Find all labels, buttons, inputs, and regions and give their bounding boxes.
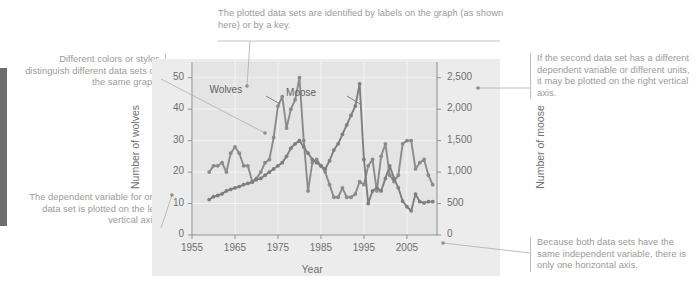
series-point-wolves xyxy=(401,142,405,146)
series-point-wolves xyxy=(427,173,431,177)
ytick-left-20: 20 xyxy=(158,165,184,176)
series-point-moose xyxy=(405,205,409,209)
series-point-wolves xyxy=(233,145,237,149)
figure-root: The plotted data sets are identified by … xyxy=(0,0,697,304)
annotation-left-bottom: The dependent variable for one data set … xyxy=(10,192,166,227)
series-point-wolves xyxy=(224,170,228,174)
series-point-moose xyxy=(375,186,379,190)
series-point-wolves xyxy=(267,158,271,162)
series-point-wolves xyxy=(358,180,362,184)
series-point-wolves xyxy=(336,195,340,199)
annotation-top: The plotted data sets are identified by … xyxy=(218,8,508,31)
xtick-2005: 2005 xyxy=(387,242,427,253)
series-point-moose xyxy=(255,178,259,182)
series-point-moose xyxy=(302,145,306,149)
series-label-moose: Moose xyxy=(286,87,316,98)
series-point-moose xyxy=(396,186,400,190)
annotation-top-text: The plotted data sets are identified by … xyxy=(218,8,508,31)
series-point-moose xyxy=(233,186,237,190)
series-point-moose xyxy=(229,187,233,191)
series-point-moose xyxy=(207,198,211,202)
series-point-moose xyxy=(267,170,271,174)
series-point-moose xyxy=(379,189,383,193)
ytick-left-50: 50 xyxy=(158,71,184,82)
series-point-wolves xyxy=(263,161,267,165)
ytick-left-40: 40 xyxy=(158,102,184,113)
series-point-moose xyxy=(431,200,435,204)
y-axis-title-left: Number of wolves xyxy=(129,92,141,202)
annotation-left-top: Different colors or styles distinguish d… xyxy=(20,54,166,89)
xtick-1955: 1955 xyxy=(172,242,212,253)
series-point-moose xyxy=(388,164,392,168)
series-point-moose xyxy=(353,104,357,108)
series-point-moose xyxy=(272,167,276,171)
series-point-wolves xyxy=(353,192,357,196)
series-point-moose xyxy=(298,139,302,143)
y-axis-title-right: Number of moose xyxy=(534,92,546,202)
ytick-right-2500: 2,500 xyxy=(447,71,483,82)
series-point-wolves xyxy=(302,139,306,143)
annotation-right-bottom-text: Because both data sets have the same ind… xyxy=(537,237,697,272)
series-point-moose xyxy=(250,180,254,184)
series-point-moose xyxy=(280,161,284,165)
series-point-moose xyxy=(259,176,263,180)
series-point-wolves xyxy=(366,164,370,168)
series-point-wolves xyxy=(345,195,349,199)
ytick-right-1000: 1,000 xyxy=(447,165,483,176)
series-point-wolves xyxy=(418,161,422,165)
series-point-moose xyxy=(349,114,353,118)
xtick-1985: 1985 xyxy=(301,242,341,253)
series-point-moose xyxy=(384,176,388,180)
series-point-moose xyxy=(341,132,345,136)
series-point-moose xyxy=(216,194,220,198)
ytick-right-0: 0 xyxy=(447,228,483,239)
series-point-moose xyxy=(323,167,327,171)
series-point-moose xyxy=(345,123,349,127)
annotation-right-top: If the second data set has a different d… xyxy=(530,53,697,99)
ytick-left-0: 0 xyxy=(158,228,184,239)
series-point-wolves xyxy=(371,158,375,162)
xtick-1975: 1975 xyxy=(258,242,298,253)
annotation-left-top-text: Different colors or styles distinguish d… xyxy=(20,54,160,89)
series-point-moose xyxy=(414,192,418,196)
series-label-wolves: Wolves xyxy=(210,84,243,95)
series-point-moose xyxy=(285,154,289,158)
series-point-moose xyxy=(427,200,431,204)
series-point-wolves xyxy=(341,186,345,190)
x-axis-title: Year xyxy=(302,263,323,275)
series-point-wolves xyxy=(280,95,284,99)
series-point-wolves xyxy=(259,170,263,174)
series-point-moose xyxy=(401,199,405,203)
series-point-moose xyxy=(328,159,332,163)
series-point-moose xyxy=(263,173,267,177)
series-point-moose xyxy=(237,185,241,189)
series-point-wolves xyxy=(246,164,250,168)
series-point-moose xyxy=(310,158,314,162)
series-point-moose xyxy=(306,151,310,155)
series-point-moose xyxy=(336,142,340,146)
page-edge-bar xyxy=(0,68,7,226)
ytick-left-30: 30 xyxy=(158,134,184,145)
xtick-1965: 1965 xyxy=(215,242,255,253)
series-point-wolves xyxy=(272,136,276,140)
series-point-wolves xyxy=(237,151,241,155)
series-point-moose xyxy=(293,142,297,146)
series-point-wolves xyxy=(414,167,418,171)
series-point-moose xyxy=(392,176,396,180)
series-point-moose xyxy=(422,201,426,205)
ytick-right-2000: 2,000 xyxy=(447,102,483,113)
series-point-wolves xyxy=(220,161,224,165)
series-point-wolves xyxy=(422,158,426,162)
series-point-wolves xyxy=(285,126,289,130)
series-point-moose xyxy=(220,192,224,196)
series-point-moose xyxy=(276,164,280,168)
ytick-left-10: 10 xyxy=(158,197,184,208)
series-point-moose xyxy=(319,164,323,168)
series-point-wolves xyxy=(332,195,336,199)
series-point-moose xyxy=(212,195,216,199)
series-point-moose xyxy=(242,183,246,187)
series-point-wolves xyxy=(379,154,383,158)
series-point-wolves xyxy=(384,142,388,146)
series-point-wolves xyxy=(388,173,392,177)
series-point-moose xyxy=(366,202,370,206)
